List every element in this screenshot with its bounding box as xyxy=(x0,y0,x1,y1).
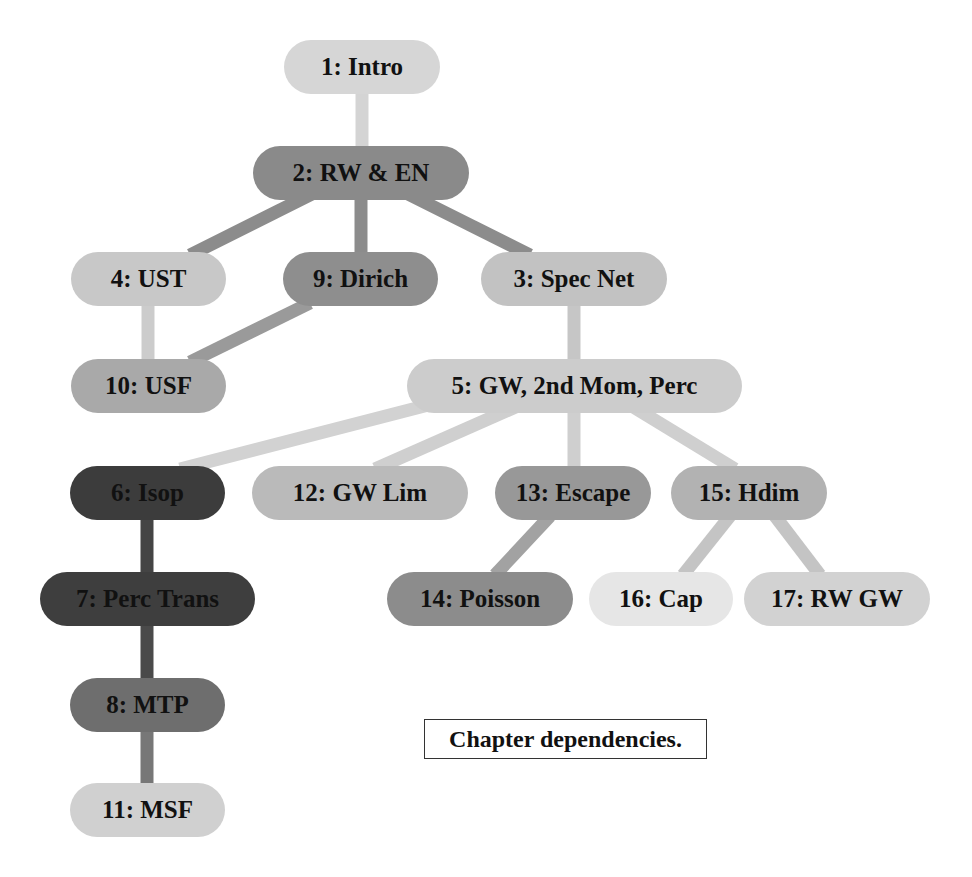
chapter-node-label: 2: RW & EN xyxy=(293,159,430,187)
chapter-node-9: 9: Dirich xyxy=(283,252,438,306)
edge-13-to-14 xyxy=(495,516,550,575)
chapter-node-label: 9: Dirich xyxy=(313,265,408,293)
edge-15-to-16 xyxy=(683,516,730,575)
chapter-node-16: 16: Cap xyxy=(589,572,733,626)
chapter-node-label: 1: Intro xyxy=(321,53,403,81)
chapter-node-11: 11: MSF xyxy=(70,783,225,837)
chapter-node-8: 8: MTP xyxy=(70,678,225,732)
chapter-node-label: 4: UST xyxy=(111,265,187,293)
edge-15-to-17 xyxy=(775,516,820,575)
chapter-node-label: 10: USF xyxy=(105,372,192,400)
chapter-node-3: 3: Spec Net xyxy=(481,252,667,306)
chapter-node-label: 12: GW Lim xyxy=(293,479,427,507)
edge-9-to-10 xyxy=(190,303,310,362)
chapter-node-label: 14: Poisson xyxy=(420,585,540,613)
chapter-node-13: 13: Escape xyxy=(495,466,651,520)
chapter-node-15: 15: Hdim xyxy=(671,466,827,520)
chapter-node-14: 14: Poisson xyxy=(387,572,573,626)
edge-5-to-15 xyxy=(630,405,735,469)
chapter-node-label: 7: Perc Trans xyxy=(76,585,219,613)
chapter-node-label: 15: Hdim xyxy=(699,479,800,507)
chapter-node-7: 7: Perc Trans xyxy=(40,572,255,626)
chapter-node-12: 12: GW Lim xyxy=(252,466,468,520)
chapter-node-label: 3: Spec Net xyxy=(514,265,635,293)
chapter-node-17: 17: RW GW xyxy=(744,572,930,626)
chapter-node-label: 8: MTP xyxy=(106,691,189,719)
diagram-caption: Chapter dependencies. xyxy=(424,719,707,759)
chapter-node-label: 13: Escape xyxy=(516,479,631,507)
chapter-node-1: 1: Intro xyxy=(284,40,440,94)
chapter-node-5: 5: GW, 2nd Mom, Perc xyxy=(407,359,742,413)
chapter-node-label: 11: MSF xyxy=(102,796,193,824)
chapter-node-10: 10: USF xyxy=(71,359,226,413)
chapter-node-6: 6: Isop xyxy=(70,466,225,520)
chapter-node-label: 17: RW GW xyxy=(771,585,903,613)
chapter-node-label: 6: Isop xyxy=(111,479,184,507)
chapter-node-4: 4: UST xyxy=(71,252,226,306)
chapter-node-2: 2: RW & EN xyxy=(253,146,469,200)
chapter-node-label: 5: GW, 2nd Mom, Perc xyxy=(452,372,698,400)
chapter-node-label: 16: Cap xyxy=(619,585,703,613)
